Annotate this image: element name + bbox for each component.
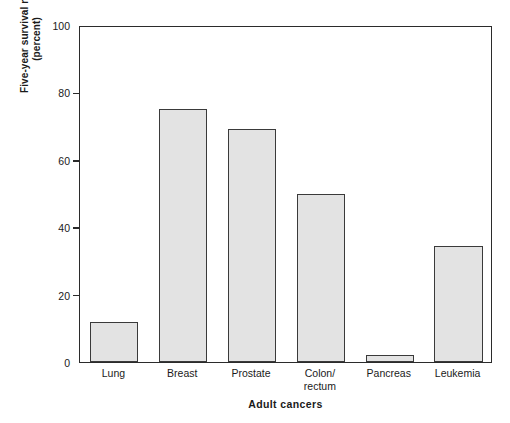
bar-pancreas	[366, 355, 414, 362]
y-axis-tick-label: 20	[44, 291, 70, 301]
x-axis-tick-labels: LungBreastProstateColon/ rectumPancreasL…	[79, 367, 492, 401]
plot-area	[80, 27, 491, 362]
x-axis-tick-label: Breast	[148, 367, 217, 380]
y-axis-tick-label: 0	[44, 358, 70, 368]
y-axis-tick-labels: 100806040200	[44, 0, 70, 423]
y-axis-title-line2: (percent)	[31, 17, 44, 61]
bar-prostate	[228, 129, 276, 362]
bar-leukemia	[434, 246, 482, 362]
y-axis-tick-label: 80	[44, 88, 70, 98]
y-axis-title: Five-year survival rate (percent)	[14, 0, 48, 134]
y-axis-tick-label: 40	[44, 223, 70, 233]
bar-chart-figure: Five-year survival rate (percent) 100806…	[0, 0, 510, 423]
plot-frame	[79, 26, 492, 363]
y-axis-title-line1: Five-year survival rate	[19, 0, 32, 93]
x-axis-tick-label: Colon/ rectum	[286, 367, 355, 392]
x-axis-tick-label: Lung	[79, 367, 148, 380]
x-axis-tick-label: Leukemia	[423, 367, 492, 380]
x-axis-tick-label: Pancreas	[354, 367, 423, 380]
y-axis-tick-label: 100	[44, 21, 70, 31]
x-axis-tick-label: Prostate	[217, 367, 286, 380]
y-axis-tick-label: 60	[44, 156, 70, 166]
bar-colonrectum	[297, 194, 345, 363]
bar-lung	[90, 322, 138, 362]
x-axis-title: Adult cancers	[79, 398, 492, 410]
bar-breast	[159, 109, 207, 362]
